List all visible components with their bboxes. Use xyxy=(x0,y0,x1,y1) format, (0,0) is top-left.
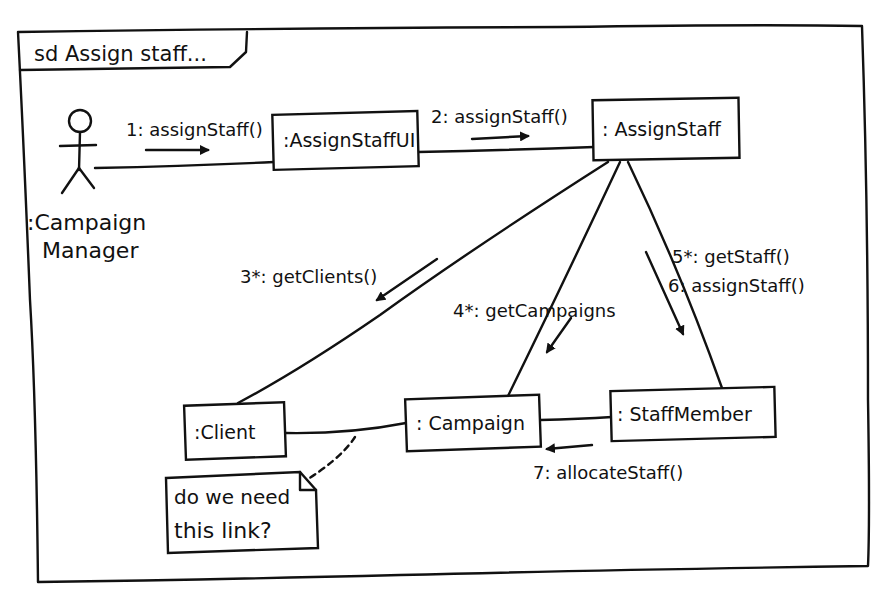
message-6: 6: assignStaff() xyxy=(668,275,805,296)
object-assignstaffui[interactable]: :AssignStaffUI xyxy=(272,111,418,170)
object-label: : Campaign xyxy=(416,412,525,434)
actor-stick-figure-icon xyxy=(60,110,96,193)
link-client-campaign xyxy=(286,423,406,433)
object-label: :AssignStaffUI xyxy=(283,129,415,151)
note-line-2: this link? xyxy=(174,518,272,543)
frame-tag: sd Assign staff... xyxy=(34,42,207,66)
arrow-msg-7-icon xyxy=(547,445,592,449)
communication-diagram: sd Assign staff... :Campaign Manager :As… xyxy=(0,0,890,598)
message-1: 1: assignStaff() xyxy=(126,119,263,140)
note-line-1: do we need xyxy=(174,485,290,509)
object-label: :Client xyxy=(194,421,255,443)
object-campaign[interactable]: : Campaign xyxy=(405,395,541,452)
message-2: 2: assignStaff() xyxy=(431,106,568,127)
actor-label-line1: :Campaign xyxy=(27,210,146,235)
object-client[interactable]: :Client xyxy=(184,402,286,459)
object-assignstaff[interactable]: : AssignStaff xyxy=(592,98,739,161)
link-actor-assignstaffui xyxy=(95,162,274,168)
note-anchor-dashed-line xyxy=(300,437,355,484)
link-campaign-staffmember xyxy=(540,417,612,420)
note-do-we-need-this-link[interactable]: do we need this link? xyxy=(166,472,318,553)
object-label: : StaffMember xyxy=(617,403,752,425)
object-label: : AssignStaff xyxy=(602,118,722,140)
object-staffmember[interactable]: : StaffMember xyxy=(610,387,775,441)
arrow-msg-3-icon xyxy=(377,259,437,300)
link-ui-assignstaff xyxy=(418,147,594,152)
message-5: 5*: getStaff() xyxy=(672,246,790,267)
message-4: 4*: getCampaigns xyxy=(453,300,616,321)
arrow-msg-4-icon xyxy=(547,318,571,352)
arrow-msg-2-icon xyxy=(472,136,528,139)
message-7: 7: allocateStaff() xyxy=(533,462,683,483)
link-assignstaff-campaign xyxy=(507,162,620,398)
actor-label-line2: Manager xyxy=(42,238,139,263)
message-3: 3*: getClients() xyxy=(240,266,377,287)
